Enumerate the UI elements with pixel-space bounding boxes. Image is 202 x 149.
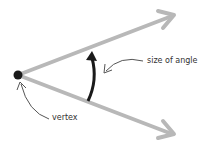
vertex-label: vertex (52, 113, 78, 122)
vertex-dot (14, 71, 23, 80)
vertex-pointer (17, 82, 49, 119)
angle-pointer (104, 59, 143, 73)
angle-arc (86, 51, 97, 101)
top-ray (18, 11, 174, 75)
angle-label: size of angle (147, 56, 198, 65)
angle-diagram (0, 0, 202, 149)
bottom-ray (18, 75, 174, 138)
